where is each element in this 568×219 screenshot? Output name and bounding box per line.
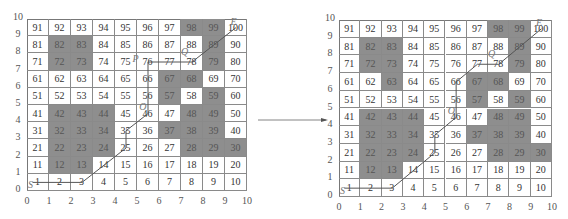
y-axis-tick: 9 — [328, 29, 333, 40]
x-axis-tick: 0 — [337, 201, 342, 212]
y-axis-tick: 0 — [16, 183, 21, 194]
path-label-s: S — [340, 185, 345, 196]
path-label-q: Q — [488, 48, 495, 59]
x-axis-tick: 4 — [113, 195, 118, 206]
path-label-e: E — [536, 17, 542, 28]
y-axis-tick: 9 — [16, 28, 21, 39]
y-axis-tick: 8 — [328, 47, 333, 58]
x-axis-tick: 3 — [400, 201, 405, 212]
x-axis-tick: 7 — [486, 201, 491, 212]
path-label-p: P — [133, 53, 139, 64]
x-axis-tick: 3 — [91, 195, 96, 206]
x-axis-tick: 2 — [379, 201, 384, 212]
x-axis-tick: 6 — [157, 195, 162, 206]
y-axis-tick: 4 — [16, 114, 21, 125]
path-label-q: Q — [181, 46, 188, 57]
x-axis-tick: 7 — [179, 195, 184, 206]
y-axis-tick: 6 — [328, 82, 333, 93]
y-axis-tick: 6 — [16, 79, 21, 90]
x-axis-tick: 8 — [201, 195, 206, 206]
x-axis-tick: 5 — [135, 195, 140, 206]
path-label-o: O — [139, 101, 146, 112]
x-axis-tick: 10 — [547, 201, 557, 212]
y-axis-tick: 3 — [328, 135, 333, 146]
path-label-s: S — [28, 179, 33, 190]
y-axis-tick: 1 — [328, 171, 333, 182]
x-axis-tick: 2 — [69, 195, 74, 206]
path-label-e: E — [231, 16, 237, 27]
y-axis-tick: 0 — [328, 189, 333, 200]
x-axis-tick: 8 — [507, 201, 512, 212]
y-axis-tick: 10 — [325, 12, 335, 23]
y-axis-tick: 1 — [16, 165, 21, 176]
y-axis-tick: 2 — [328, 153, 333, 164]
y-axis-tick: 7 — [16, 62, 21, 73]
y-axis-tick: 2 — [16, 148, 21, 159]
y-axis-tick: 3 — [16, 131, 21, 142]
y-axis-tick: 7 — [328, 65, 333, 76]
x-axis-tick: 4 — [422, 201, 427, 212]
x-axis-tick: 6 — [464, 201, 469, 212]
transform-arrow-icon — [0, 0, 568, 219]
x-axis-tick: 1 — [47, 195, 52, 206]
y-axis-tick: 8 — [16, 45, 21, 56]
y-axis-tick: 5 — [328, 100, 333, 111]
x-axis-tick: 0 — [25, 195, 30, 206]
x-axis-tick: 9 — [528, 201, 533, 212]
x-axis-tick: 10 — [242, 195, 252, 206]
x-axis-tick: 1 — [358, 201, 363, 212]
y-axis-tick: 4 — [328, 118, 333, 129]
x-axis-tick: 5 — [443, 201, 448, 212]
y-axis-tick: 5 — [16, 97, 21, 108]
x-axis-tick: 9 — [223, 195, 228, 206]
path-label-o: O — [448, 105, 455, 116]
y-axis-tick: 10 — [13, 11, 23, 22]
